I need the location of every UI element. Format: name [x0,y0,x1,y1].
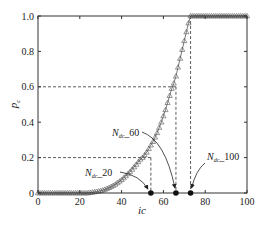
annotation-label: Ndc_20 [84,167,112,179]
annotation-arrow [142,132,175,188]
x-ticks: 020406080100 [36,16,255,207]
y-tick-label: 0.4 [22,117,35,128]
x-tick-label: 80 [200,196,210,207]
x-tick-label: 40 [117,196,127,207]
plot-frame [38,16,247,193]
annotation-label: Ndc_60 [111,127,139,139]
y-tick-label: 0.2 [22,152,35,163]
y-tick-label: 0.6 [22,81,35,92]
series-p-c [35,13,249,194]
annotation-arrow [120,172,148,189]
annotation-suffix: _100 [218,151,239,162]
y-axis-label-sub: c [14,99,22,103]
key-point-dot [188,190,194,196]
x-tick-label: 100 [240,196,255,207]
annotation-suffix: _60 [123,127,139,138]
chart: 020406080100 00.20.40.60.81.0 Ndc_20Ndc_… [0,0,266,228]
key-point-dot [148,190,154,196]
x-axis-label: ic [138,204,146,216]
x-tick-label: 20 [75,196,85,207]
y-tick-label: 1.0 [22,11,35,22]
x-tick-label: 60 [158,196,168,207]
axes-frame [38,16,247,193]
x-tick-label: 0 [36,196,41,207]
annotation-suffix: _20 [96,167,112,178]
series-line [38,16,247,193]
key-point-dot [173,190,179,196]
svg-text:pc: pc [7,99,22,110]
y-axis-label: pc [7,99,22,110]
y-tick-label: 0.8 [22,46,35,57]
annotations: Ndc_20Ndc_60Ndc_100 [84,127,239,189]
y-tick-label: 0 [29,188,34,199]
annotation-arrow [192,163,205,188]
annotation-label: Ndc_100 [206,151,239,163]
